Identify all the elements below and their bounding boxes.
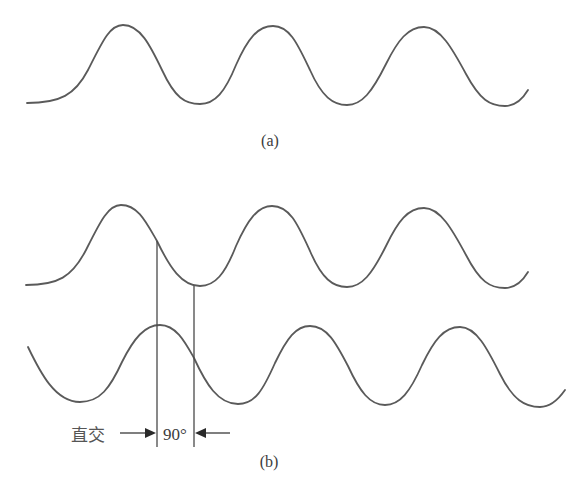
wave-b-lower xyxy=(28,325,565,407)
phase-label: 90° xyxy=(163,425,187,444)
arrow-left-icon xyxy=(195,428,230,438)
quadrature-diagram: (a) 直交 90° (b) xyxy=(0,0,586,481)
wave-a xyxy=(27,25,528,106)
orthogonal-label: 直交 xyxy=(71,425,105,445)
caption-b: (b) xyxy=(260,453,279,471)
wave-b-upper xyxy=(26,205,528,288)
arrow-right-icon xyxy=(120,428,156,438)
caption-a: (a) xyxy=(261,132,279,150)
